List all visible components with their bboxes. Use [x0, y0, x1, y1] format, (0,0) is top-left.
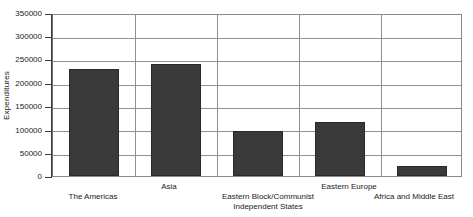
- y-axis-tick: [45, 14, 52, 15]
- y-tick-label: 300000: [0, 33, 42, 41]
- plot-area: [52, 14, 462, 177]
- gridline-vertical: [135, 15, 136, 176]
- gridline-horizontal: [53, 61, 461, 62]
- y-axis-tick: [45, 154, 52, 155]
- bar-eastern-europe: [315, 122, 365, 176]
- y-tick-label: 100000: [0, 127, 42, 135]
- bar-chart: Expenditures 350000 300000 250000 200000…: [0, 0, 473, 217]
- bar-the-americas: [69, 69, 119, 176]
- y-tick-label: 250000: [0, 56, 42, 64]
- y-axis-tick: [45, 177, 52, 178]
- y-tick-label: 150000: [0, 103, 42, 111]
- y-axis-tick: [45, 37, 52, 38]
- bar-africa-and-middle-east: [397, 166, 447, 176]
- x-tick-label-eastern-block: Eastern Block/Communist Independent Stat…: [208, 192, 328, 212]
- gridline-vertical: [299, 15, 300, 176]
- y-tick-label: 50000: [0, 150, 42, 158]
- bar-eastern-block: [233, 131, 283, 176]
- y-axis-tick: [45, 131, 52, 132]
- y-axis-tick: [45, 84, 52, 85]
- y-axis-tick: [45, 107, 52, 108]
- gridline-vertical: [217, 15, 218, 176]
- x-tick-label-eastern-europe: Eastern Europe: [294, 182, 404, 192]
- y-tick-label: 350000: [0, 10, 42, 18]
- x-tick-label-africa-and-middle-east: Africa and Middle East: [355, 192, 473, 202]
- x-tick-label-asia: Asia: [128, 182, 210, 192]
- y-tick-label: 200000: [0, 80, 42, 88]
- gridline-vertical: [381, 15, 382, 176]
- bar-asia: [151, 64, 201, 176]
- x-tick-label-the-americas: The Americas: [28, 192, 158, 202]
- y-tick-label: 0: [0, 173, 42, 181]
- gridline-horizontal: [53, 38, 461, 39]
- y-axis-tick: [45, 60, 52, 61]
